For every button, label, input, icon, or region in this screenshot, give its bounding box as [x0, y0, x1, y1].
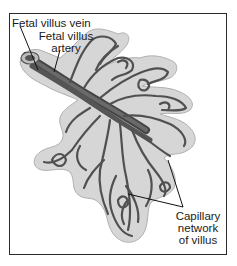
- vein-label: Fetal villus vein: [12, 17, 91, 29]
- artery-label-line-1: Fetal villus: [38, 30, 94, 42]
- capillary-label-line-3: of villus: [170, 234, 226, 246]
- capillary-label: Capillary network of villus: [170, 210, 226, 246]
- artery-label-line-2: artery: [38, 42, 94, 54]
- artery-label: Fetal villus artery: [38, 30, 94, 54]
- figure-canvas: Fetal villus vein Fetal villus artery Ca…: [0, 0, 237, 266]
- capillary-label-line-2: network: [170, 222, 226, 234]
- capillary-label-line-1: Capillary: [170, 210, 226, 222]
